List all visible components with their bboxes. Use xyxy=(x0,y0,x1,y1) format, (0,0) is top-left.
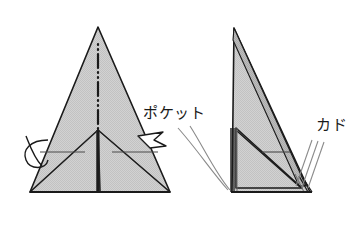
pocket-label: ポケット xyxy=(143,104,205,122)
diagram-canvas: ポケット カド xyxy=(0,0,362,233)
corner-label: カド xyxy=(316,116,347,134)
origami-diagram: ポケット カド xyxy=(0,0,362,233)
